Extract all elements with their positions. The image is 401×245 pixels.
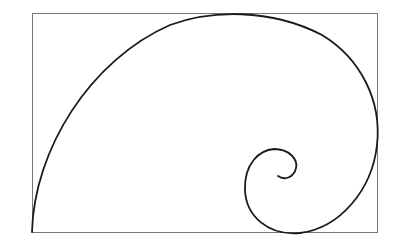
golden-rectangle-frame xyxy=(33,14,378,233)
golden-spiral-diagram xyxy=(0,0,401,245)
golden-spiral-curve xyxy=(32,14,378,233)
